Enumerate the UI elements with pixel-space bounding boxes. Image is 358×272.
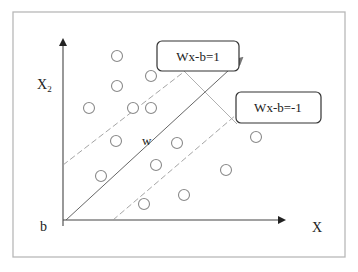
data-point — [172, 138, 183, 149]
data-point — [251, 132, 262, 143]
data-point — [111, 136, 122, 147]
w-vector-label: w — [142, 133, 152, 148]
data-point — [112, 51, 123, 62]
data-point — [84, 103, 95, 114]
svm-diagram: X2 X b w Wx-b=1 Wx-b=-1 — [0, 0, 358, 272]
negative-margin-box: Wx-b=-1 — [236, 92, 321, 123]
data-point — [146, 103, 157, 114]
data-point — [151, 160, 162, 171]
data-point — [179, 190, 190, 201]
x-axis-label: X — [312, 220, 322, 235]
data-point — [128, 103, 139, 114]
data-point — [139, 199, 150, 210]
origin-label: b — [40, 219, 47, 234]
data-point — [112, 81, 123, 92]
negative-margin-label: Wx-b=-1 — [254, 100, 302, 115]
positive-margin-box: Wx-b=1 — [157, 41, 239, 71]
data-point — [221, 165, 232, 176]
data-point — [146, 71, 157, 82]
positive-margin-label: Wx-b=1 — [176, 49, 219, 64]
data-point — [96, 171, 107, 182]
